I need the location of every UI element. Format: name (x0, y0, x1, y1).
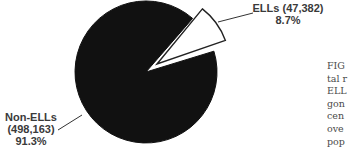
non-ell-percent-label: 91.3% (0, 135, 62, 147)
caption-line: gon (327, 98, 347, 111)
caption-line: cen (327, 110, 347, 123)
non-ell-count-label: (498,163) (0, 123, 62, 135)
ell-count-label: ELLs (47,382) (250, 2, 326, 14)
ell-leader-line (218, 13, 253, 22)
non-ell-name-label: Non-ELLs (0, 111, 62, 123)
caption-line: FIG (327, 60, 347, 73)
caption-line: ELL (327, 85, 347, 98)
caption-line: tal r (327, 73, 347, 86)
ell-slice-label: ELLs (47,382) 8.7% (250, 2, 326, 26)
non-ell-slice-label: Non-ELLs (498,163) 91.3% (0, 111, 62, 147)
ell-percent-label: 8.7% (250, 14, 326, 26)
figure-caption: FIG tal r ELL gon cen ove pop (327, 60, 347, 148)
caption-line: ove (327, 123, 347, 136)
caption-line: pop (327, 136, 347, 149)
